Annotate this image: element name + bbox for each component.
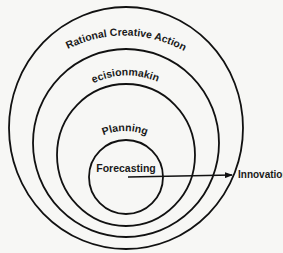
circle-planning — [57, 84, 195, 226]
label-innovation: Innovation — [238, 169, 283, 180]
nested-circles-diagram: Rational Creative Action Decisionmaking … — [0, 0, 283, 253]
label-planning: Planning — [100, 121, 150, 137]
label-forecasting: Forecasting — [96, 162, 156, 174]
innovation-arrow — [128, 175, 232, 177]
